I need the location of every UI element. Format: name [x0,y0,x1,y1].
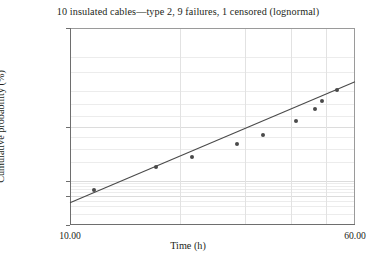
data-point [313,107,317,111]
plot-area: 99.0050.0010.005.001.00 10.0060.00 [70,28,355,225]
probability-plot-figure: 10 insulated cables—type 2, 9 failures, … [0,0,376,270]
lognormal-fit-line [70,28,355,225]
data-point [235,142,239,146]
x-tick-label: 10.00 [59,230,81,241]
chart-title: 10 insulated cables—type 2, 9 failures, … [0,6,376,17]
data-point [335,88,339,92]
data-point [92,188,96,192]
x-tick-label: 60.00 [344,230,366,241]
y-axis-label: Cumulative probability (%) [0,28,9,225]
data-point [261,133,265,137]
x-axis-label: Time (h) [0,240,376,251]
data-point [190,155,194,159]
y-tick-mark [66,225,70,226]
